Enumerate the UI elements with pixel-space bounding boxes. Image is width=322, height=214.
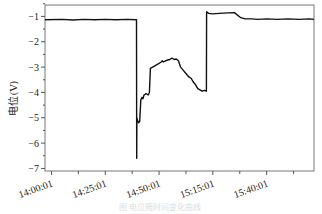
figure-caption: 图 电位随时间变化曲线	[119, 202, 202, 212]
x-tick-label: 15:15:01	[178, 178, 215, 200]
series-line	[45, 12, 314, 159]
y-axis-label: 电位(V)	[7, 80, 19, 115]
plot-frame	[45, 5, 314, 171]
y-tick-label: −7	[28, 163, 39, 174]
x-tick-label: 14:00:01	[17, 178, 54, 200]
chart-svg: −1−2−3−4−5−6−714:00:0114:25:0114:50:0115…	[0, 0, 322, 214]
y-tick-label: −6	[28, 138, 39, 149]
x-tick-label: 14:25:01	[71, 178, 108, 200]
plot-area: −1−2−3−4−5−6−714:00:0114:25:0114:50:0115…	[17, 4, 314, 200]
x-tick-label: 15:40:01	[232, 178, 269, 200]
y-tick-label: −1	[28, 11, 39, 22]
y-tick-label: −4	[28, 87, 39, 98]
y-tick-label: −2	[28, 36, 39, 47]
y-tick-label: −5	[28, 112, 39, 123]
y-tick-label: −3	[28, 62, 39, 73]
x-tick-label: 14:50:01	[125, 178, 162, 200]
